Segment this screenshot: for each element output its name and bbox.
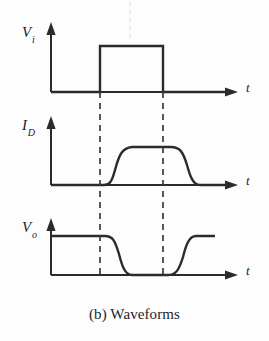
id-x-axis-label: t: [246, 173, 250, 189]
id-x-axis-arrowhead: [225, 180, 238, 189]
vo-x-axis-arrowhead: [225, 270, 238, 279]
vo-y-axis-arrowhead: [46, 218, 55, 231]
vo-y-axis-label-main: V: [22, 219, 31, 235]
plot-vi: [46, 22, 238, 97]
vi-waveform-trace: [51, 46, 226, 92]
id-y-axis-label: ID: [22, 117, 35, 136]
vi-x-axis-arrowhead: [225, 87, 238, 96]
vi-y-axis-label-main: V: [22, 24, 31, 40]
plot-id: [46, 116, 238, 190]
vo-x-axis-label: t: [246, 263, 250, 279]
vi-y-axis-label-sub: i: [32, 34, 35, 45]
id-y-axis-arrowhead: [46, 116, 55, 129]
vi-y-axis-arrowhead: [46, 22, 55, 35]
waveforms-figure: Vi t ID t Vo t (b) Waveforms: [0, 0, 269, 341]
waveforms-plot: [0, 0, 269, 341]
figure-caption: (b) Waveforms: [0, 306, 269, 323]
vo-y-axis-label-sub: o: [32, 229, 37, 240]
vi-y-axis-label: Vi: [22, 24, 34, 43]
id-y-axis-label-main: I: [22, 117, 27, 133]
id-y-axis-label-sub: D: [28, 127, 35, 138]
vi-x-axis-label: t: [246, 80, 250, 96]
vo-waveform-trace: [51, 236, 215, 275]
vo-y-axis-label: Vo: [22, 219, 37, 238]
id-waveform-trace: [51, 147, 226, 185]
plot-vo: [46, 218, 238, 280]
